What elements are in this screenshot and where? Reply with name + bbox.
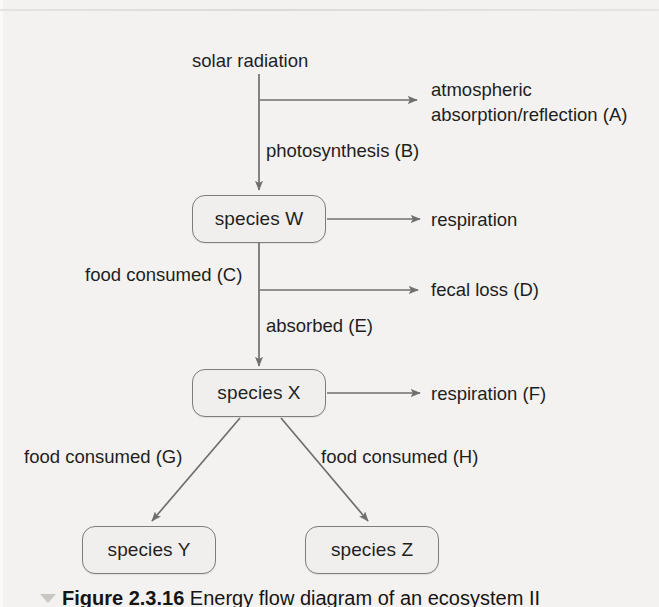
- node-species-x-label: species X: [217, 382, 300, 404]
- node-species-x[interactable]: species X: [192, 369, 326, 417]
- edge-speciesX-to-speciesY: [152, 418, 240, 521]
- label-food-consumed-g: food consumed (G): [24, 446, 182, 467]
- figure-caption-text: Energy flow diagram of an ecosystem II: [190, 587, 540, 607]
- label-photosynthesis: photosynthesis (B): [266, 140, 419, 161]
- figure-page: solar radiation atmospheric absorption/r…: [0, 0, 659, 607]
- label-respiration-w: respiration: [431, 209, 517, 230]
- edge-speciesX-to-speciesZ: [281, 418, 368, 521]
- node-species-z-label: species Z: [331, 539, 413, 561]
- label-fecal-loss: fecal loss (D): [431, 279, 539, 300]
- label-solar-radiation: solar radiation: [192, 50, 308, 71]
- label-atmospheric-absorption-line2: absorption/reflection (A): [431, 104, 627, 125]
- node-species-y-label: species Y: [108, 539, 191, 561]
- label-absorbed: absorbed (E): [266, 315, 373, 336]
- label-respiration-x: respiration (F): [431, 383, 546, 404]
- figure-caption-number: Figure 2.3.16: [62, 587, 184, 607]
- node-species-y[interactable]: species Y: [82, 526, 216, 574]
- label-food-consumed-c: food consumed (C): [85, 264, 242, 285]
- label-atmospheric-absorption-line1: atmospheric: [431, 79, 532, 100]
- triangle-marker-icon: [40, 594, 56, 603]
- node-species-w-label: species W: [215, 208, 304, 230]
- node-species-z[interactable]: species Z: [305, 526, 439, 574]
- node-species-w[interactable]: species W: [192, 195, 326, 243]
- figure-caption: Figure 2.3.16 Energy flow diagram of an …: [62, 586, 659, 607]
- label-food-consumed-h: food consumed (H): [321, 446, 478, 467]
- diagram-connectors: [0, 0, 659, 607]
